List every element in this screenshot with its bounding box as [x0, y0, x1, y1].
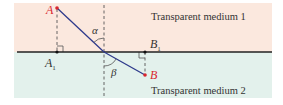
- point-b1: [143, 50, 146, 53]
- label-alpha: α: [92, 24, 98, 36]
- label-a: A: [45, 3, 54, 17]
- point-a: [55, 6, 59, 10]
- medium-2-label: Transparent medium 2: [151, 85, 246, 96]
- point-b: [143, 73, 147, 77]
- point-a1: [55, 50, 58, 53]
- label-b1-subscript: 1: [157, 45, 161, 53]
- label-b: B: [150, 68, 158, 82]
- refraction-diagram: A B A1 B1 α β Transparent medium 1 Trans…: [0, 0, 283, 105]
- medium-1-label: Transparent medium 1: [151, 11, 246, 22]
- label-a1-subscript: 1: [52, 64, 56, 72]
- label-beta: β: [110, 66, 117, 78]
